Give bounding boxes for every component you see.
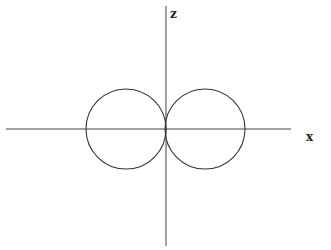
z-axis-label: z [170,8,177,20]
diagram-svg [0,0,331,250]
dipole-diagram: z x [0,0,331,250]
x-axis-label: x [306,131,313,143]
